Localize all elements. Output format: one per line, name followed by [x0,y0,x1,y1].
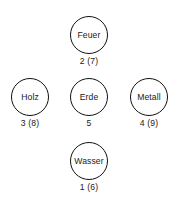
element-label-holz: Holz [0,78,60,116]
element-node-metall[interactable]: Metall 4 (9) [130,78,168,116]
element-node-wasser[interactable]: Wasser 1 (6) [70,142,108,180]
element-node-feuer[interactable]: Feuer 2 (7) [70,16,108,54]
element-caption-feuer: 2 (7) [54,57,124,66]
element-node-erde[interactable]: Erde 5 [70,78,108,116]
element-label-wasser: Wasser [59,142,119,180]
element-label-erde: Erde [59,78,119,116]
five-elements-diagram: Feuer 2 (7) Holz 3 (8) Erde 5 Metall 4 (… [0,0,178,204]
element-caption-metall: 4 (9) [114,119,178,128]
element-label-feuer: Feuer [59,16,119,54]
element-node-holz[interactable]: Holz 3 (8) [11,78,49,116]
element-caption-wasser: 1 (6) [54,183,124,192]
element-label-metall: Metall [119,78,178,116]
